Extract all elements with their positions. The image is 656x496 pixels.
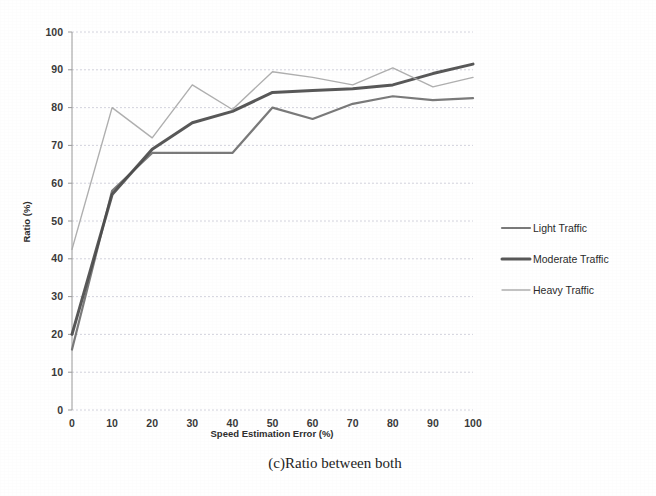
y-tick-label: 40 bbox=[51, 252, 63, 264]
x-tick-label: 100 bbox=[464, 417, 482, 429]
y-tick-label: 0 bbox=[57, 404, 63, 416]
figure-caption-text: (c)Ratio between both bbox=[268, 455, 401, 472]
y-tick-label: 100 bbox=[45, 26, 63, 38]
figure-panel: 0102030405060708090100 01020304050607080… bbox=[0, 0, 656, 496]
line-chart: 0102030405060708090100 01020304050607080… bbox=[0, 0, 656, 496]
y-tick-label: 30 bbox=[51, 290, 63, 302]
x-axis-title: Speed Estimation Error (%) bbox=[211, 428, 334, 439]
y-tick-label: 80 bbox=[51, 101, 63, 113]
y-tick-marks bbox=[68, 32, 72, 410]
y-tick-label: 50 bbox=[51, 215, 63, 227]
x-tick-label: 30 bbox=[186, 417, 198, 429]
y-tick-label: 10 bbox=[51, 366, 63, 378]
y-tick-labels: 0102030405060708090100 bbox=[45, 26, 63, 416]
y-axis-title: Ratio (%) bbox=[21, 201, 32, 242]
chart-legend: Light TrafficModerate TrafficHeavy Traff… bbox=[502, 222, 609, 296]
plot-area: 0102030405060708090100 01020304050607080… bbox=[45, 26, 481, 430]
y-tick-label: 90 bbox=[51, 63, 63, 75]
legend-label-heavy-traffic: Heavy Traffic bbox=[533, 284, 594, 296]
y-tick-label: 20 bbox=[51, 328, 63, 340]
legend-label-moderate-traffic: Moderate Traffic bbox=[533, 253, 609, 265]
y-tick-label: 60 bbox=[51, 177, 63, 189]
series-line-moderate-traffic bbox=[72, 64, 473, 334]
gridlines bbox=[72, 32, 473, 410]
x-tick-label: 70 bbox=[347, 417, 359, 429]
series-line-heavy-traffic bbox=[72, 68, 473, 249]
data-series-group bbox=[72, 64, 473, 349]
x-tick-label: 20 bbox=[146, 417, 158, 429]
x-tick-label: 80 bbox=[387, 417, 399, 429]
x-tick-label: 90 bbox=[427, 417, 439, 429]
x-tick-label: 10 bbox=[106, 417, 118, 429]
series-line-light-traffic bbox=[72, 96, 473, 349]
y-tick-label: 70 bbox=[51, 139, 63, 151]
legend-label-light-traffic: Light Traffic bbox=[533, 222, 587, 234]
x-tick-label: 0 bbox=[69, 417, 75, 429]
figure-caption: (c)Ratio between both bbox=[0, 455, 656, 472]
